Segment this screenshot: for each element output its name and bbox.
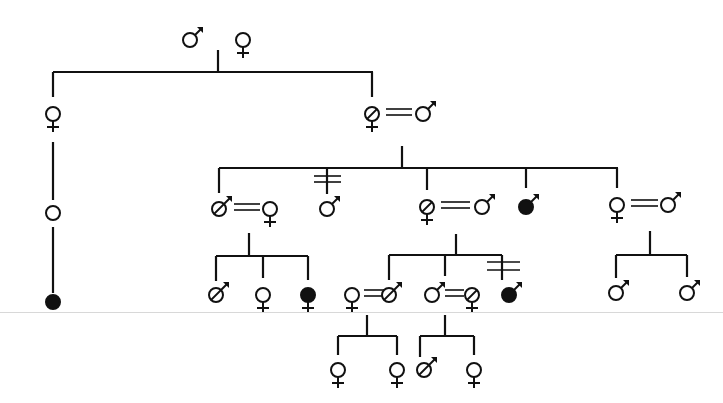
individual-male-affected-icon: [519, 194, 539, 214]
individual-female-normal-icon: [263, 202, 277, 227]
individual-male-normal-icon: [320, 196, 340, 216]
individual-female-normal-icon: [390, 363, 404, 388]
individual-male-normal-icon: [475, 194, 495, 214]
individual-female-affected-icon: [301, 288, 315, 313]
individual-male-carrier-icon: [212, 196, 232, 216]
individual-unknown-normal-icon: [46, 206, 60, 220]
individual-female-normal-icon: [46, 107, 60, 132]
pedigree-chart: [0, 0, 723, 403]
individual-male-normal-icon: [609, 280, 629, 300]
individual-female-normal-icon: [331, 363, 345, 388]
scan-artifact-line: [0, 312, 723, 313]
individual-female-normal-icon: [467, 363, 481, 388]
individual-male-carrier-icon: [209, 282, 229, 302]
pedigree-diagram: [0, 0, 723, 403]
individual-male-normal-icon: [661, 192, 681, 212]
individual-male-normal-icon: [416, 101, 436, 121]
individual-male-affected-icon: [502, 282, 522, 302]
individual-female-normal-icon: [610, 198, 624, 223]
individual-female-normal-icon: [236, 33, 250, 58]
individual-female-carrier-icon: [465, 288, 479, 313]
individual-male-normal-icon: [183, 27, 203, 47]
individual-male-carrier-icon: [382, 282, 402, 302]
individual-male-normal-icon: [425, 282, 445, 302]
pedigree-lines: [53, 50, 687, 357]
individual-male-carrier-icon: [417, 357, 437, 377]
individual-male-normal-icon: [680, 280, 700, 300]
individual-female-normal-icon: [256, 288, 270, 313]
individual-unknown-affected-icon: [46, 295, 60, 309]
individual-female-carrier-icon: [365, 107, 379, 132]
individual-female-carrier-icon: [420, 200, 434, 225]
individual-female-normal-icon: [345, 288, 359, 313]
